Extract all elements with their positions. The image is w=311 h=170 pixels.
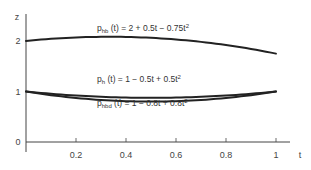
p-h-label: ph (t) = 1 − 0.5t + 0.5t2 <box>97 74 182 85</box>
chart: zt0120.20.40.60.81 phb (t) = 2 + 0.5t − … <box>0 0 311 170</box>
curves <box>26 37 276 102</box>
y-tick-label: 0 <box>15 137 20 147</box>
x-tick-label: 0.8 <box>220 150 233 160</box>
x-tick-label: 0.6 <box>170 150 183 160</box>
x-tick-label: 0.2 <box>70 150 83 160</box>
y-tick-label: 1 <box>15 87 20 97</box>
x-tick-label: 1 <box>273 150 278 160</box>
p-hb-curve <box>26 37 276 54</box>
x-tick-label: 0.4 <box>120 150 133 160</box>
y-axis-label: z <box>15 12 20 22</box>
p-hb-label: phb (t) = 2 + 0.5t − 0.75t2 <box>97 23 190 34</box>
y-tick-label: 2 <box>15 36 20 46</box>
x-axis-label: t <box>299 150 302 160</box>
axes: zt0120.20.40.60.81 <box>15 12 302 160</box>
